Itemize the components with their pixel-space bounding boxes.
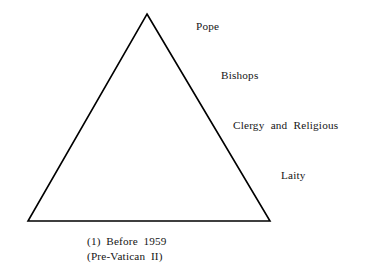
figure-page: Pope Bishops Clergy and Religious Laity … [0,0,381,280]
tier-label-clergy-and-religious: Clergy and Religious [233,120,338,131]
triangle-outline [28,14,270,221]
triangle-svg [0,0,381,280]
hierarchy-triangle-figure [0,0,381,280]
tier-label-pope: Pope [196,21,219,32]
tier-label-bishops: Bishops [221,70,258,81]
figure-caption: (1) Before 1959 (Pre-Vatican II) [87,234,167,264]
caption-line-1: (1) Before 1959 [87,234,167,249]
tier-label-laity: Laity [281,170,306,181]
caption-line-2: (Pre-Vatican II) [87,249,167,264]
